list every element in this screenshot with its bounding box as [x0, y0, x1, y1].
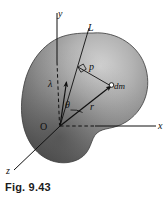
dm-label: dm — [114, 82, 125, 91]
origin-label: O — [40, 122, 47, 132]
rigid-body-blob — [21, 33, 147, 163]
figure-diagram — [0, 0, 168, 199]
figure-caption: Fig. 9.43 — [5, 181, 51, 193]
theta-label: θ — [65, 100, 70, 110]
r-label: r — [90, 102, 94, 112]
p-distance-label: p — [89, 62, 94, 72]
z-axis-label: z — [6, 166, 10, 176]
x-axis-label: x — [158, 121, 162, 131]
y-axis-label: y — [58, 9, 62, 19]
line-L-label: L — [88, 23, 94, 33]
figure-container: y L p dm λ θ r O x z Fig. 9.43 — [0, 0, 168, 199]
lambda-label: λ — [48, 79, 52, 89]
